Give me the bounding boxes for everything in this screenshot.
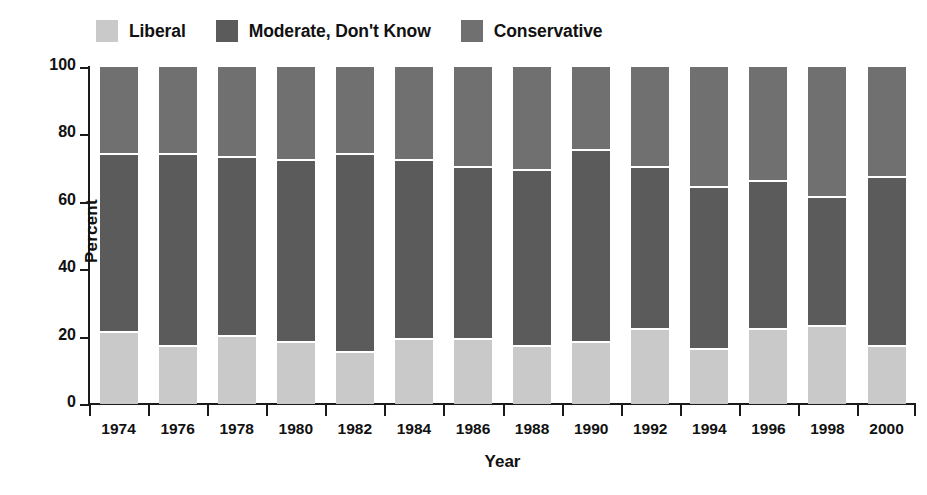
- x-tick-label-1978: 1978: [207, 420, 266, 442]
- bar-segment-moderate-don-t-know-2000[interactable]: [868, 178, 906, 347]
- bar-segment-conservative-1974[interactable]: [100, 67, 138, 155]
- x-tick-label-1990: 1990: [562, 420, 621, 442]
- bar-stack: [690, 67, 728, 404]
- bar-segment-moderate-don-t-know-1990[interactable]: [572, 151, 610, 343]
- y-tick-mark: [80, 202, 89, 204]
- x-tick-label-1976: 1976: [148, 420, 207, 442]
- bar-segment-liberal-1984[interactable]: [395, 340, 433, 404]
- x-tick-1996: [739, 405, 798, 416]
- bar-stack: [513, 67, 551, 404]
- bar-segment-moderate-don-t-know-1986[interactable]: [454, 168, 492, 340]
- bar-segment-conservative-2000[interactable]: [868, 67, 906, 178]
- bar-segment-moderate-don-t-know-1980[interactable]: [277, 161, 315, 343]
- bar-series-container: [89, 67, 916, 404]
- x-tick-mark: [798, 405, 800, 416]
- bar-segment-liberal-1998[interactable]: [808, 327, 846, 405]
- y-tick-label: 20: [58, 326, 76, 344]
- bar-segment-liberal-1996[interactable]: [749, 330, 787, 404]
- x-tick-1998: [798, 405, 857, 416]
- bar-segment-liberal-1992[interactable]: [631, 330, 669, 404]
- bar-stack: [395, 67, 433, 404]
- bar-segment-liberal-1978[interactable]: [218, 337, 256, 404]
- x-tick-label-1980: 1980: [266, 420, 325, 442]
- x-tick-1994: [680, 405, 739, 416]
- x-tick-mark: [680, 405, 682, 416]
- x-tick-mark: [89, 405, 91, 416]
- bar-stack: [454, 67, 492, 404]
- bar-segment-liberal-1990[interactable]: [572, 343, 610, 404]
- bar-segment-moderate-don-t-know-1982[interactable]: [336, 155, 374, 354]
- x-tick-1990: [562, 405, 621, 416]
- bar-segment-liberal-1976[interactable]: [159, 347, 197, 404]
- x-tick-label-1974: 1974: [89, 420, 148, 442]
- bar-segment-conservative-1986[interactable]: [454, 67, 492, 168]
- y-tick-mark: [80, 269, 89, 271]
- y-tick-label: 40: [58, 258, 76, 276]
- bar-column-1974[interactable]: [89, 67, 148, 404]
- y-tick-label: 80: [58, 123, 76, 141]
- bar-segment-conservative-1984[interactable]: [395, 67, 433, 161]
- x-tick-mark: [739, 405, 741, 416]
- bar-segment-conservative-1992[interactable]: [631, 67, 669, 168]
- bar-segment-moderate-don-t-know-1984[interactable]: [395, 161, 433, 340]
- bar-column-1996[interactable]: [739, 67, 798, 404]
- bar-column-1990[interactable]: [562, 67, 621, 404]
- bar-segment-moderate-don-t-know-1992[interactable]: [631, 168, 669, 330]
- bar-segment-liberal-1974[interactable]: [100, 333, 138, 404]
- bar-column-1984[interactable]: [384, 67, 443, 404]
- stacked-bar-chart: Percent 020406080100 1974197619781980198…: [0, 0, 927, 495]
- bar-segment-moderate-don-t-know-1996[interactable]: [749, 182, 787, 330]
- x-tick-label-1996: 1996: [739, 420, 798, 442]
- bar-column-1986[interactable]: [443, 67, 502, 404]
- bar-segment-conservative-1990[interactable]: [572, 67, 610, 151]
- bar-column-2000[interactable]: [857, 67, 916, 404]
- bar-segment-conservative-1980[interactable]: [277, 67, 315, 161]
- bar-segment-moderate-don-t-know-1994[interactable]: [690, 188, 728, 350]
- x-tick-mark: [384, 405, 386, 416]
- bar-segment-liberal-1988[interactable]: [513, 347, 551, 404]
- y-tick-label: 60: [58, 191, 76, 209]
- bar-column-1992[interactable]: [621, 67, 680, 404]
- x-tick-mark: [857, 405, 859, 416]
- x-tick-label-1998: 1998: [798, 420, 857, 442]
- bar-segment-moderate-don-t-know-1974[interactable]: [100, 155, 138, 334]
- bar-column-1980[interactable]: [266, 67, 325, 404]
- bar-segment-conservative-1988[interactable]: [513, 67, 551, 171]
- bar-column-1978[interactable]: [207, 67, 266, 404]
- bar-column-1982[interactable]: [325, 67, 384, 404]
- x-tick-1978: [207, 405, 266, 416]
- x-tick-mark: [266, 405, 268, 416]
- bar-segment-conservative-1994[interactable]: [690, 67, 728, 188]
- bar-segment-moderate-don-t-know-1988[interactable]: [513, 171, 551, 346]
- x-tick-1992: [621, 405, 680, 416]
- bar-segment-liberal-1986[interactable]: [454, 340, 492, 404]
- bar-segment-moderate-don-t-know-1976[interactable]: [159, 155, 197, 347]
- bar-segment-conservative-1978[interactable]: [218, 67, 256, 158]
- x-axis-title: Year: [89, 452, 916, 472]
- y-tick-mark: [80, 67, 89, 69]
- bar-segment-moderate-don-t-know-1978[interactable]: [218, 158, 256, 337]
- bar-segment-liberal-1982[interactable]: [336, 353, 374, 404]
- bar-segment-conservative-1998[interactable]: [808, 67, 846, 198]
- x-tick-label-1984: 1984: [384, 420, 443, 442]
- bar-segment-liberal-1994[interactable]: [690, 350, 728, 404]
- bar-stack: [336, 67, 374, 404]
- x-tick-1980: [266, 405, 325, 416]
- bar-stack: [868, 67, 906, 404]
- bar-column-1976[interactable]: [148, 67, 207, 404]
- bar-segment-moderate-don-t-know-1998[interactable]: [808, 198, 846, 326]
- x-tick-label-1994: 1994: [680, 420, 739, 442]
- bar-column-1998[interactable]: [798, 67, 857, 404]
- bar-segment-liberal-2000[interactable]: [868, 347, 906, 404]
- bar-segment-liberal-1980[interactable]: [277, 343, 315, 404]
- bar-column-1988[interactable]: [503, 67, 562, 404]
- bar-column-1994[interactable]: [680, 67, 739, 404]
- x-tick-mark: [207, 405, 209, 416]
- bar-segment-conservative-1996[interactable]: [749, 67, 787, 182]
- x-axis-ticks: [89, 405, 916, 416]
- bar-segment-conservative-1976[interactable]: [159, 67, 197, 155]
- x-tick-1986: [443, 405, 502, 416]
- x-tick-label-1986: 1986: [443, 420, 502, 442]
- bar-stack: [100, 67, 138, 404]
- bar-segment-conservative-1982[interactable]: [336, 67, 374, 155]
